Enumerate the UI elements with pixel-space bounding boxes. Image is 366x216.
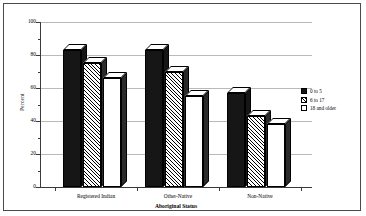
bar-front: [103, 78, 121, 187]
y-tick-0: [36, 187, 40, 188]
legend-swatch-open-icon: [301, 105, 307, 111]
legend-item-18-and-older[interactable]: 18 and older: [301, 105, 363, 111]
y-tick-labels: 100 80 60 40 20 0: [16, 4, 36, 216]
y-tick-60: [36, 88, 40, 89]
y-tick-50: [38, 105, 41, 106]
bar-front: [185, 96, 203, 187]
y-tick-100: [36, 22, 40, 23]
bar-other-native-0-to-5[interactable]: [145, 50, 163, 187]
bar-front: [83, 63, 101, 187]
bar-other-native-18-and-older[interactable]: [185, 96, 203, 187]
y-tick-90: [38, 39, 41, 40]
bar-front: [267, 124, 285, 187]
x-tick-3: [301, 187, 302, 191]
y-tick-label-100: 100: [20, 19, 36, 24]
x-category-non-native: Non-Native: [225, 193, 295, 199]
legend-label-6-to-17: 6 to 17: [310, 97, 324, 103]
x-tick-2: [219, 187, 220, 191]
x-tick-1: [137, 187, 138, 191]
y-tick-label-60: 60: [20, 85, 36, 90]
bar-front: [145, 50, 163, 187]
bar-front: [63, 50, 81, 187]
y-tick-40: [36, 121, 40, 122]
y-tick-label-40: 40: [20, 118, 36, 123]
bar-registered-indian-6-to-17[interactable]: [83, 63, 101, 187]
bar-front: [165, 72, 183, 188]
y-tick-label-80: 80: [20, 52, 36, 57]
y-tick-10: [38, 171, 41, 172]
legend-label-0-to-5: 0 to 5: [310, 88, 322, 94]
bar-side: [121, 72, 127, 187]
y-axis-line: [40, 22, 41, 188]
x-tick-0: [55, 187, 56, 191]
bar-registered-indian-0-to-5[interactable]: [63, 50, 81, 187]
chart-legend: 0 to 5 6 to 17 18 and older: [301, 88, 363, 114]
bar-non-native-0-to-5[interactable]: [227, 93, 245, 187]
y-tick-30: [38, 138, 41, 139]
legend-label-18-and-older: 18 and older: [310, 105, 336, 111]
x-axis-title: Aboriginal Status: [40, 203, 312, 209]
bar-chart-plot: Percent 100 80 60 40 20 0: [4, 4, 366, 216]
bar-registered-indian-18-and-older[interactable]: [103, 78, 121, 187]
legend-item-6-to-17[interactable]: 6 to 17: [301, 97, 363, 103]
bar-non-native-6-to-17[interactable]: [247, 116, 265, 187]
bar-side: [285, 118, 291, 187]
chart-frame: Percent 100 80 60 40 20 0: [3, 3, 361, 211]
legend-item-0-to-5[interactable]: 0 to 5: [301, 88, 363, 94]
bar-front: [247, 116, 265, 187]
bar-non-native-18-and-older[interactable]: [267, 124, 285, 187]
bar-other-native-6-to-17[interactable]: [165, 72, 183, 188]
y-tick-label-20: 20: [20, 151, 36, 156]
bar-front: [227, 93, 245, 187]
y-tick-label-0: 0: [20, 184, 36, 189]
x-category-registered-indian: Registered Indian: [61, 193, 131, 199]
x-category-other-native: Other-Native: [143, 193, 213, 199]
legend-swatch-hatch-icon: [301, 97, 307, 103]
y-tick-20: [36, 154, 40, 155]
gridline-100: [40, 22, 312, 23]
legend-swatch-solid-icon: [301, 88, 307, 94]
y-tick-80: [36, 55, 40, 56]
bar-side: [203, 90, 209, 187]
y-tick-70: [38, 72, 41, 73]
